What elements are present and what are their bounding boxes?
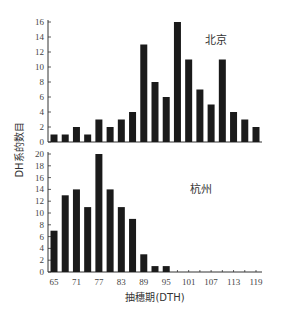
- x-tick-label: 89: [139, 277, 149, 287]
- bar: [107, 189, 114, 272]
- x-tick-label: 101: [182, 277, 196, 287]
- x-tick-label: 77: [94, 277, 104, 287]
- bar-chart-figure: 0246810121416 02468101214161820657177838…: [0, 0, 285, 315]
- bar: [118, 120, 125, 143]
- y-tick-label: 6: [40, 232, 45, 242]
- y-tick-label: 0: [40, 267, 45, 277]
- bottom-panel-label: 杭州: [190, 182, 212, 196]
- top-panel-label: 北京: [205, 33, 227, 47]
- bar: [253, 127, 260, 142]
- bar: [62, 195, 69, 272]
- y-tick-label: 4: [40, 107, 45, 117]
- y-tick-label: 16: [35, 173, 45, 183]
- y-tick-label: 8: [40, 77, 45, 87]
- bar: [118, 207, 125, 272]
- y-tick-label: 10: [35, 62, 45, 72]
- bar: [51, 135, 58, 143]
- y-tick-label: 12: [35, 196, 44, 206]
- x-tick-label: 107: [204, 277, 218, 287]
- bar: [196, 90, 203, 143]
- x-tick-label: 65: [50, 277, 60, 287]
- bar: [95, 154, 102, 272]
- bar: [107, 127, 114, 142]
- x-tick-label: 83: [117, 277, 127, 287]
- bar: [140, 254, 147, 272]
- bar: [208, 105, 215, 143]
- bar: [95, 120, 102, 143]
- y-tick-label: 0: [40, 137, 45, 147]
- y-tick-label: 6: [40, 92, 45, 102]
- y-tick-label: 2: [40, 122, 45, 132]
- x-tick-label: 95: [162, 277, 172, 287]
- bar: [62, 135, 69, 143]
- y-tick-label: 18: [35, 161, 45, 171]
- bar: [129, 219, 136, 272]
- y-tick-label: 8: [40, 220, 45, 230]
- bar: [152, 82, 159, 142]
- y-tick-label: 4: [40, 243, 45, 253]
- bar: [163, 266, 170, 272]
- y-tick-label: 2: [40, 255, 45, 265]
- bar: [241, 120, 248, 143]
- y-tick-label: 14: [35, 32, 45, 42]
- y-tick-label: 12: [35, 47, 44, 57]
- bar: [185, 60, 192, 143]
- bar: [51, 231, 58, 272]
- x-axis-title: 抽穗期(DTH): [125, 291, 184, 303]
- x-tick-label: 119: [249, 277, 263, 287]
- y-axis-title: DH系的数目: [13, 122, 25, 177]
- y-tick-label: 20: [35, 149, 45, 159]
- bottom-panel-hangzhou: 0246810121416182065717783899510110711311…: [35, 149, 263, 287]
- y-tick-label: 16: [35, 17, 45, 27]
- bar: [140, 45, 147, 143]
- bar: [73, 127, 80, 142]
- bar: [219, 60, 226, 143]
- x-tick-label: 71: [72, 277, 81, 287]
- x-tick-label: 113: [227, 277, 241, 287]
- bar: [84, 207, 91, 272]
- bar: [163, 97, 170, 142]
- bar: [230, 112, 237, 142]
- bar: [84, 135, 91, 143]
- top-panel-beijing: 0246810121416: [35, 17, 262, 147]
- bar: [152, 266, 159, 272]
- bar: [73, 189, 80, 272]
- y-tick-label: 10: [35, 208, 45, 218]
- bar: [174, 22, 181, 142]
- y-tick-label: 14: [35, 184, 45, 194]
- bar: [129, 112, 136, 142]
